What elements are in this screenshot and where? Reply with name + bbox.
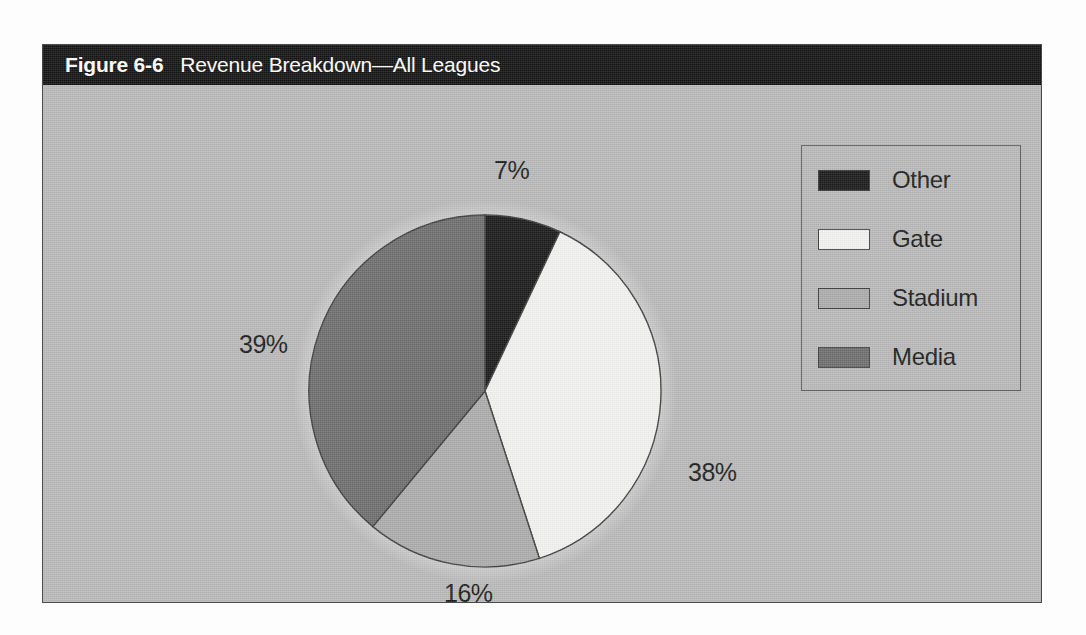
- legend-swatch-stadium: [818, 288, 870, 309]
- legend-item-media: Media: [818, 342, 956, 372]
- legend-swatch-gate: [818, 229, 870, 250]
- legend-label-media: Media: [892, 343, 956, 371]
- pie-label-other: 7%: [494, 156, 529, 185]
- figure-header: Figure 6-6 Revenue Breakdown—All Leagues: [43, 45, 1041, 85]
- pie-slices: [309, 215, 661, 567]
- pie-label-stadium: 16%: [444, 579, 493, 603]
- legend-label-gate: Gate: [892, 225, 943, 253]
- figure-caption: Revenue Breakdown—All Leagues: [180, 53, 500, 77]
- legend-item-stadium: Stadium: [818, 283, 978, 313]
- pie-label-gate: 38%: [688, 458, 737, 487]
- legend-swatch-media: [818, 347, 870, 368]
- legend-swatch-other: [818, 170, 870, 191]
- legend-item-other: Other: [818, 165, 951, 195]
- page-background: Figure 6-6 Revenue Breakdown—All Leagues: [0, 0, 1086, 635]
- chart-area: 7% 38% 16% 39% Other Gate Stadium: [43, 85, 1041, 603]
- pie-label-media: 39%: [239, 330, 288, 359]
- figure-panel: Figure 6-6 Revenue Breakdown—All Leagues: [42, 44, 1042, 603]
- figure-number: Figure 6-6: [65, 53, 163, 77]
- legend-item-gate: Gate: [818, 224, 943, 254]
- legend-label-other: Other: [892, 166, 951, 194]
- legend: Other Gate Stadium Media: [801, 145, 1021, 391]
- legend-label-stadium: Stadium: [892, 284, 978, 312]
